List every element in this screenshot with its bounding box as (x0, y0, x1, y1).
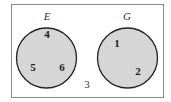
outside-element-3: 3 (84, 78, 90, 90)
venn-diagram: E 4 5 6 G 1 2 3 (0, 0, 171, 102)
set-e-element-5: 5 (30, 61, 36, 73)
set-g-circle (98, 28, 158, 88)
set-g-element-1: 1 (114, 37, 120, 49)
set-g-element-2: 2 (135, 65, 141, 77)
set-e-element-6: 6 (59, 61, 65, 73)
set-e-element-4: 4 (44, 28, 50, 40)
set-g-label: G (123, 10, 131, 22)
set-e-label: E (43, 10, 51, 22)
